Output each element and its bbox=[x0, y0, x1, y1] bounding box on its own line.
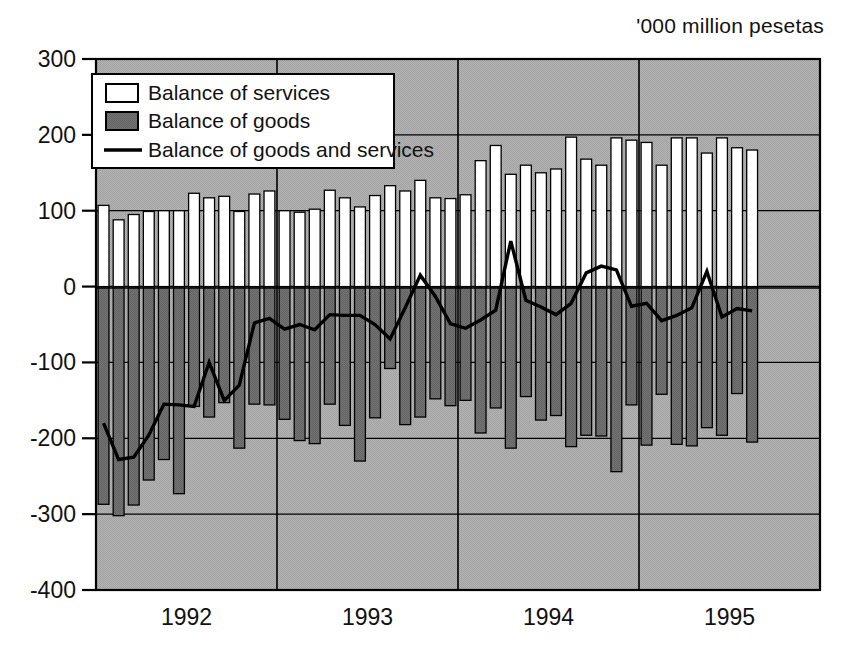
bar-goods bbox=[460, 287, 471, 401]
bar-goods bbox=[581, 287, 592, 436]
bar-goods bbox=[113, 287, 124, 516]
bar-goods bbox=[98, 287, 109, 505]
bar-services bbox=[370, 196, 381, 287]
bar-goods bbox=[294, 287, 305, 441]
bar-services bbox=[113, 220, 124, 287]
bar-goods bbox=[475, 287, 486, 433]
y-tick-label: -400 bbox=[30, 577, 76, 603]
bar-services bbox=[189, 193, 200, 286]
x-axis: 1992199319941995 bbox=[161, 604, 755, 630]
bar-goods bbox=[611, 287, 622, 472]
bar-services bbox=[611, 138, 622, 287]
bar-services bbox=[234, 211, 245, 286]
bar-services bbox=[98, 205, 109, 286]
bar-goods bbox=[505, 287, 516, 449]
bar-goods bbox=[264, 287, 275, 405]
bar-services bbox=[686, 138, 697, 287]
bar-services bbox=[656, 165, 667, 286]
bar-services bbox=[339, 198, 350, 287]
bar-services bbox=[490, 145, 501, 286]
bar-services bbox=[249, 194, 260, 287]
bar-goods bbox=[339, 287, 350, 426]
bar-services bbox=[400, 191, 411, 287]
balance-of-payments-chart: 3002001000-100-200-300-400 1992199319941… bbox=[0, 0, 842, 647]
bar-goods bbox=[445, 287, 456, 406]
bar-services bbox=[505, 174, 516, 286]
bar-services bbox=[475, 161, 486, 287]
bar-goods bbox=[309, 287, 320, 444]
bar-goods bbox=[551, 287, 562, 416]
bar-goods bbox=[324, 287, 335, 405]
y-tick-label: 200 bbox=[38, 122, 76, 148]
x-tick-label-1992: 1992 bbox=[161, 604, 212, 630]
bar-services bbox=[324, 190, 335, 286]
legend-label-goods-and-services: Balance of goods and services bbox=[148, 138, 434, 161]
bar-services bbox=[747, 150, 758, 287]
bar-services bbox=[355, 207, 366, 287]
bar-services bbox=[581, 159, 592, 286]
bar-services bbox=[128, 215, 139, 287]
bar-goods bbox=[355, 287, 366, 461]
bar-services bbox=[143, 211, 154, 286]
legend-label-services: Balance of services bbox=[148, 81, 330, 104]
bar-services bbox=[204, 198, 215, 287]
bar-services bbox=[520, 165, 531, 286]
bar-services bbox=[385, 186, 396, 287]
bar-goods bbox=[219, 287, 230, 403]
bar-goods bbox=[415, 287, 426, 417]
x-tick-label-1994: 1994 bbox=[523, 604, 574, 630]
bar-services bbox=[641, 142, 652, 286]
chart-legend: Balance of services Balance of goods Bal… bbox=[92, 74, 434, 168]
bar-services bbox=[460, 195, 471, 287]
bar-services bbox=[294, 212, 305, 286]
bar-goods bbox=[671, 287, 682, 445]
bar-goods bbox=[732, 287, 743, 394]
bar-goods bbox=[656, 287, 667, 395]
y-tick-label: -300 bbox=[30, 501, 76, 527]
y-axis: 3002001000-100-200-300-400 bbox=[30, 46, 96, 603]
legend-label-goods: Balance of goods bbox=[148, 109, 310, 132]
bar-services bbox=[717, 138, 728, 287]
bar-goods bbox=[158, 287, 169, 460]
bar-services bbox=[626, 140, 637, 286]
bar-services bbox=[536, 173, 547, 287]
x-tick-label-1993: 1993 bbox=[342, 604, 393, 630]
legend-swatch-services bbox=[106, 84, 138, 102]
bar-services bbox=[415, 180, 426, 286]
bar-services bbox=[445, 199, 456, 287]
bar-services bbox=[264, 191, 275, 287]
y-tick-label: 100 bbox=[38, 198, 76, 224]
bar-services bbox=[158, 211, 169, 287]
bar-goods bbox=[596, 287, 607, 436]
bar-services bbox=[279, 211, 290, 287]
y-tick-label: 300 bbox=[38, 46, 76, 72]
y-tick-label: -200 bbox=[30, 425, 76, 451]
legend-swatch-goods bbox=[106, 112, 138, 130]
bar-services bbox=[566, 137, 577, 286]
bar-services bbox=[219, 196, 230, 286]
y-tick-label: -100 bbox=[30, 349, 76, 375]
bar-services bbox=[174, 211, 185, 287]
bar-goods bbox=[143, 287, 154, 480]
bar-goods bbox=[566, 287, 577, 447]
bar-services bbox=[732, 148, 743, 287]
bar-services bbox=[430, 198, 441, 287]
y-tick-label: 0 bbox=[63, 274, 76, 300]
bar-services bbox=[701, 153, 712, 287]
x-tick-label-1995: 1995 bbox=[704, 604, 755, 630]
bar-services bbox=[671, 138, 682, 287]
bar-services bbox=[551, 169, 562, 287]
bar-goods bbox=[189, 287, 200, 407]
bar-goods bbox=[279, 287, 290, 420]
bar-goods bbox=[204, 287, 215, 417]
bar-goods bbox=[641, 287, 652, 446]
bar-goods bbox=[701, 287, 712, 428]
bar-goods bbox=[174, 287, 185, 494]
bar-goods bbox=[370, 287, 381, 418]
bar-services bbox=[309, 209, 320, 286]
bar-goods bbox=[128, 287, 139, 505]
chart-container: '000 million pesetas 3 bbox=[0, 0, 842, 647]
